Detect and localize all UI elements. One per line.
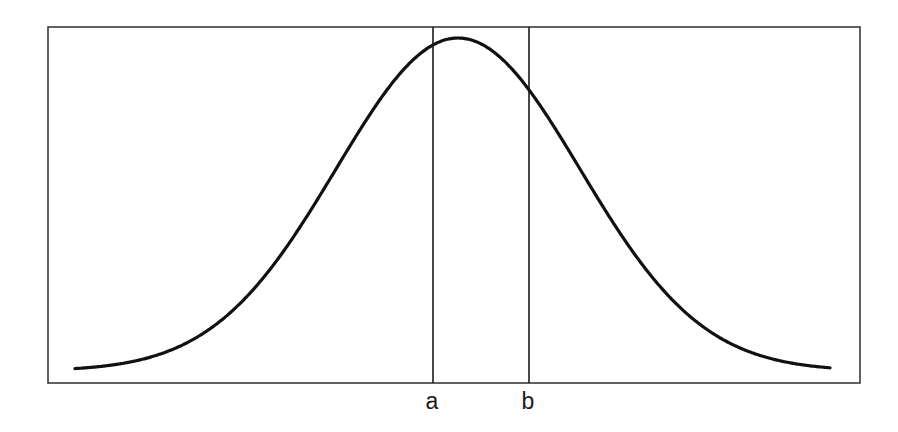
- bell-curve-figure: a b: [0, 0, 898, 432]
- axis-label-a: a: [426, 388, 439, 414]
- axis-label-b: b: [522, 388, 535, 414]
- figure-background: [0, 0, 898, 432]
